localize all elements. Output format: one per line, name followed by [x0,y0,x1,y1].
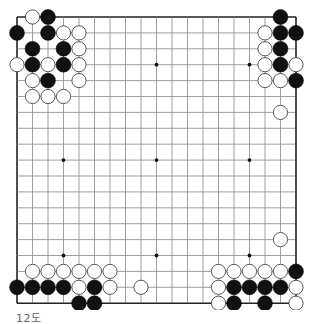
black-stone [25,57,40,72]
white-stone [211,296,225,310]
black-stone [72,296,87,310]
star-point [248,254,252,258]
black-stone [258,280,273,295]
white-stone [289,58,303,72]
white-stone [289,296,303,310]
black-stone [87,280,102,295]
black-stone [289,73,304,88]
go-board [0,0,313,310]
black-stone [273,280,288,295]
black-stone [289,26,304,41]
black-stone [25,41,40,56]
white-stone [258,74,272,88]
white-stone [103,264,117,278]
star-point [62,158,66,162]
white-stone [72,280,86,294]
star-point [155,63,159,67]
black-stone [87,296,102,310]
white-stone [41,58,55,72]
black-stone [10,26,25,41]
white-stone [87,264,101,278]
white-stone [41,264,55,278]
white-stone [258,264,272,278]
white-stone [56,26,70,40]
white-stone [211,280,225,294]
black-stone [25,280,40,295]
black-stone [41,26,56,41]
white-stone [56,264,70,278]
go-board-svg [0,0,313,310]
black-stone [41,73,56,88]
white-stone [258,26,272,40]
black-stone [227,280,242,295]
black-stone [56,41,71,56]
white-stone [25,89,39,103]
white-stone [10,58,24,72]
white-stone [25,10,39,24]
white-stone [72,42,86,56]
star-point [155,254,159,258]
white-stone [25,74,39,88]
black-stone [41,280,56,295]
white-stone [258,58,272,72]
black-stone [10,280,25,295]
black-stone [258,296,273,310]
white-stone [56,89,70,103]
white-stone [242,264,256,278]
white-stone [258,42,272,56]
black-stone [227,296,242,310]
white-stone [227,264,241,278]
black-stone [56,57,71,72]
black-stone [273,26,288,41]
white-stone [273,105,287,119]
white-stone [103,280,117,294]
diagram-caption: 12도 [16,309,42,324]
star-point [248,158,252,162]
white-stone [72,26,86,40]
white-stone [273,74,287,88]
black-stone [273,57,288,72]
white-stone [273,264,287,278]
white-stone [41,89,55,103]
black-stone [242,280,257,295]
black-stone [289,264,304,279]
white-stone [134,280,148,294]
star-point [155,158,159,162]
white-stone [211,264,225,278]
white-stone [72,58,86,72]
white-stone [273,233,287,247]
white-stone [289,280,303,294]
black-stone [273,41,288,56]
white-stone [72,264,86,278]
black-stone [56,280,71,295]
black-stone [41,10,56,25]
white-stone [25,264,39,278]
black-stone [273,10,288,25]
star-point [248,63,252,67]
star-point [62,254,66,258]
white-stone [72,74,86,88]
